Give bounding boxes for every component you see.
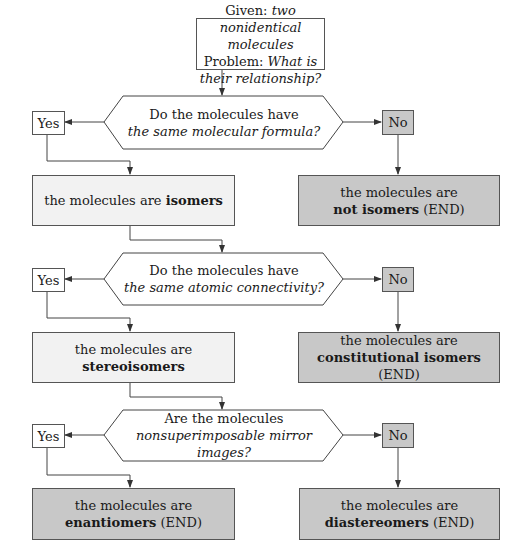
outcome-stereoisomers: the molecules are stereoisomers [32,332,235,383]
decision-molecular-formula: Do the molecules have the same molecular… [110,96,338,149]
yes-label-2: Yes [32,268,65,292]
outcome-isomers-text: the molecules are isomers [44,192,223,209]
outcome-enantiomers: the molecules are enantiomers (END) [32,488,235,540]
no-label-3: No [382,423,414,448]
outcome-not-isomers: the molecules are not isomers (END) [298,175,500,226]
outcome-constitutional-isomers: the molecules are constitutional isomers… [298,332,500,383]
no-label-1: No [382,110,414,135]
start-box: Given: two nonidentical molecules Proble… [196,18,325,70]
no-label-2: No [382,267,414,292]
yes-label-1: Yes [32,111,65,135]
decision-atomic-connectivity: Do the molecules have the same atomic co… [110,253,338,305]
outcome-diastereomers: the molecules are diastereomers (END) [299,488,500,540]
decision-mirror-images: Are the molecules nonsuperimposable mirr… [110,410,338,461]
given-line: Given: two nonidentical molecules [197,2,324,53]
problem-line: Problem: What is their relationship? [197,53,324,87]
yes-label-3: Yes [32,424,65,448]
outcome-isomers: the molecules are isomers [32,175,235,226]
